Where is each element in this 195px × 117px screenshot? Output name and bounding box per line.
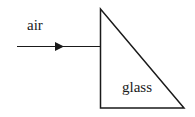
glass-label: glass (122, 79, 152, 95)
arrowhead-icon (55, 42, 64, 51)
refraction-diagram: air glass (0, 0, 195, 117)
air-label: air (27, 17, 43, 33)
